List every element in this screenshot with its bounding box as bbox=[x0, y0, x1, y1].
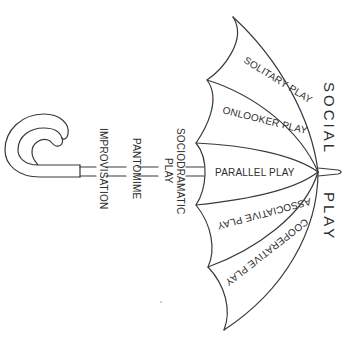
panel-label-solitary-play: SOLITARY PLAY bbox=[242, 54, 315, 105]
umbrella-handle bbox=[5, 114, 80, 177]
shaft-label-improvisation: IMPROVISATION bbox=[98, 128, 109, 209]
umbrella-illustration: SOLITARY PLAY ONLOOKER PLAY PARALLEL PLA… bbox=[0, 0, 352, 339]
title-play: PLAY bbox=[321, 192, 338, 241]
shaft-label-sociodramatic: SOCIODRAMATIC bbox=[175, 128, 186, 214]
shaft-label-pantomime: PANTOMIME bbox=[131, 138, 142, 200]
social-play-umbrella-diagram: SOLITARY PLAY ONLOOKER PLAY PARALLEL PLA… bbox=[0, 0, 352, 339]
panel-label-parallel-play: PARALLEL PLAY bbox=[215, 167, 295, 178]
title-social: SOCIAL bbox=[321, 82, 338, 155]
shaft-label-sociodramatic-play: PLAY bbox=[163, 158, 174, 184]
speck bbox=[160, 301, 162, 303]
